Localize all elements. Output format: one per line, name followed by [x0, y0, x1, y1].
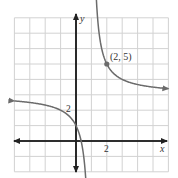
function-graph: (2, 5) 2 2 x y	[0, 0, 178, 178]
x-axis-label: x	[159, 143, 165, 154]
point-label: (2, 5)	[110, 51, 132, 63]
x-tick-label: 2	[104, 144, 109, 154]
y-axis-label: y	[79, 13, 85, 24]
grid-lines	[14, 18, 168, 172]
y-tick-label: 2	[66, 104, 71, 114]
point-marker	[104, 61, 109, 66]
